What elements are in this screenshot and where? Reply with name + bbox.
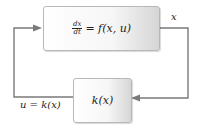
plant-block: dx dt = f(x, u) bbox=[43, 6, 160, 51]
control-signal-label: u = k(x) bbox=[20, 99, 61, 110]
derivative-fraction: dx dt bbox=[72, 21, 82, 36]
plant-equation-rhs: = f(x, u) bbox=[85, 22, 131, 35]
arrow-into-plant bbox=[33, 25, 42, 32]
fraction-denominator: dt bbox=[74, 29, 81, 36]
controller-block: k(x) bbox=[73, 78, 132, 123]
arrow-into-controller bbox=[131, 95, 140, 102]
feedback-diagram: dx dt = f(x, u) k(x) x u = k(x) bbox=[0, 0, 201, 132]
controller-label: k(x) bbox=[92, 94, 113, 107]
state-signal-label: x bbox=[171, 11, 177, 22]
